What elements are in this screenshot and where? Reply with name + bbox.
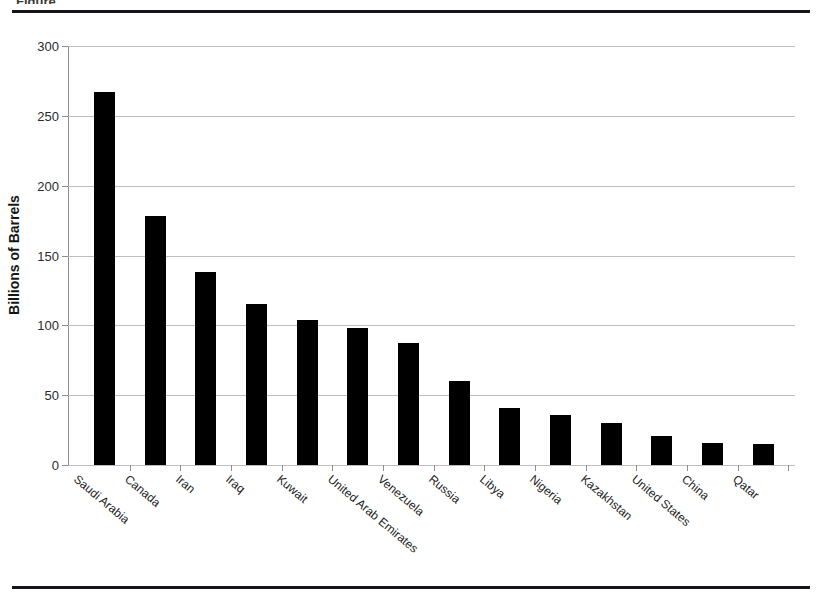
y-tick-label-250: 250 — [37, 108, 59, 123]
x-tick-label: Canada — [122, 472, 163, 510]
x-tick-label: Libya — [477, 472, 508, 501]
x-tick-mark — [636, 465, 637, 471]
y-tick-label-100: 100 — [37, 318, 59, 333]
bar — [550, 415, 571, 465]
bar — [398, 343, 419, 465]
gridline-50 — [68, 395, 795, 396]
x-tick-mark — [180, 465, 181, 471]
x-tick-mark — [738, 465, 739, 471]
bar — [499, 408, 520, 465]
x-tick-mark — [788, 465, 789, 471]
x-tick-label: Nigeria — [527, 472, 565, 507]
figure-caption-sliver: Figure — [16, 0, 56, 4]
y-tick-mark-0 — [62, 465, 68, 466]
x-tick-mark — [535, 465, 536, 471]
bar — [297, 320, 318, 465]
x-tick-label: China — [679, 472, 712, 503]
x-tick-label: Kazakhstan — [578, 472, 635, 523]
y-tick-mark-150 — [62, 256, 68, 257]
y-tick-label-200: 200 — [37, 178, 59, 193]
x-tick-mark — [586, 465, 587, 471]
gridline-250 — [68, 116, 795, 117]
y-axis-title: Billions of Barrels — [6, 195, 22, 315]
bar — [246, 304, 267, 465]
gridline-100 — [68, 325, 795, 326]
x-tick-label: Iran — [173, 472, 198, 496]
x-tick-label: Russia — [426, 472, 463, 506]
gridline-200 — [68, 186, 795, 187]
figure-container: Figure Billions of Barrels 0501001502002… — [0, 0, 822, 599]
figure-bottom-rule — [12, 586, 810, 589]
y-tick-mark-300 — [62, 46, 68, 47]
x-tick-mark — [383, 465, 384, 471]
x-tick-mark — [332, 465, 333, 471]
x-tick-mark — [231, 465, 232, 471]
y-tick-mark-100 — [62, 325, 68, 326]
bar — [195, 272, 216, 465]
y-tick-label-300: 300 — [37, 39, 59, 54]
bar — [449, 381, 470, 465]
gridline-150 — [68, 256, 795, 257]
y-tick-label-150: 150 — [37, 248, 59, 263]
y-tick-mark-250 — [62, 116, 68, 117]
plot-area: 050100150200250300 — [68, 46, 795, 465]
x-tick-mark — [687, 465, 688, 471]
bar — [145, 216, 166, 465]
x-tick-label: Qatar — [730, 472, 762, 502]
y-tick-label-50: 50 — [45, 388, 59, 403]
gridline-0 — [68, 465, 795, 466]
x-tick-label: Venezuela — [375, 472, 427, 519]
x-tick-mark — [282, 465, 283, 471]
gridline-300 — [68, 46, 795, 47]
x-tick-mark — [434, 465, 435, 471]
bar — [347, 328, 368, 465]
y-tick-mark-50 — [62, 395, 68, 396]
x-tick-label: Kuwait — [274, 472, 311, 506]
y-tick-label-0: 0 — [52, 458, 59, 473]
bar — [94, 92, 115, 465]
bar — [753, 444, 774, 465]
y-tick-mark-200 — [62, 186, 68, 187]
figure-top-rule — [12, 10, 810, 13]
bar — [702, 443, 723, 465]
x-tick-mark — [484, 465, 485, 471]
bar — [651, 436, 672, 465]
bar — [601, 423, 622, 465]
x-tick-mark — [130, 465, 131, 471]
x-tick-label: Iraq — [223, 472, 248, 496]
x-tick-label: United Arab Emirates — [325, 472, 421, 556]
